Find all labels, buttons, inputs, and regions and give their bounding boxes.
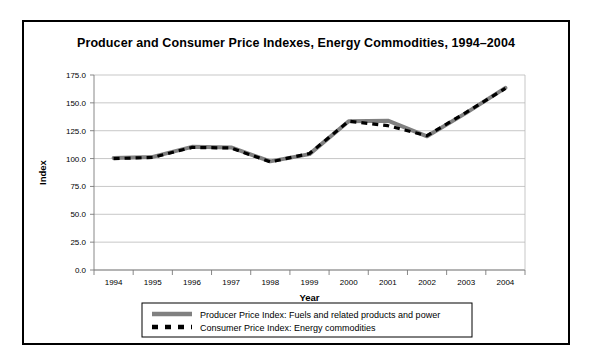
y-tick-label: 150.0 <box>66 99 87 108</box>
x-tick-label: 2003 <box>457 278 475 287</box>
x-tick-label: 2001 <box>379 278 397 287</box>
axis-tickmarks <box>90 75 525 275</box>
chart-svg: 0.025.050.075.0100.0125.0150.0175.0 1994… <box>24 22 572 347</box>
chart-figure: Producer and Consumer Price Indexes, Ene… <box>22 20 570 345</box>
x-tick-label: 1996 <box>183 278 201 287</box>
x-tick-label: 1998 <box>261 278 279 287</box>
plot-area: 0.025.050.075.0100.0125.0150.0175.0 1994… <box>24 22 572 347</box>
data-series-group <box>114 88 506 162</box>
x-tick-label: 1999 <box>301 278 319 287</box>
x-tick-label: 1994 <box>105 278 123 287</box>
y-tick-label: 125.0 <box>66 127 87 136</box>
x-tick-label: 1995 <box>144 278 162 287</box>
y-axis-title: Index <box>37 159 48 185</box>
y-tick-label: 0.0 <box>75 266 87 275</box>
x-axis-title: Year <box>299 292 319 303</box>
gridlines <box>94 75 525 270</box>
x-tick-label: 2004 <box>497 278 515 287</box>
chart-legend: Producer Price Index: Fuels and related … <box>142 303 472 337</box>
y-tick-label: 25.0 <box>70 238 86 247</box>
axis-lines <box>94 75 525 270</box>
legend-label: Consumer Price Index: Energy commodities <box>200 323 376 333</box>
x-tick-label: 2002 <box>418 278 436 287</box>
y-tick-label: 100.0 <box>66 155 87 164</box>
y-tick-label: 175.0 <box>66 71 87 80</box>
y-axis-tick-labels: 0.025.050.075.0100.0125.0150.0175.0 <box>66 71 87 275</box>
x-axis-tick-labels: 1994199519961997199819992000200120022003… <box>105 278 515 287</box>
x-tick-label: 2000 <box>340 278 358 287</box>
y-tick-label: 75.0 <box>70 182 86 191</box>
series-line-2 <box>114 88 506 162</box>
y-tick-label: 50.0 <box>70 210 86 219</box>
legend-label: Producer Price Index: Fuels and related … <box>200 310 440 320</box>
x-tick-label: 1997 <box>222 278 240 287</box>
